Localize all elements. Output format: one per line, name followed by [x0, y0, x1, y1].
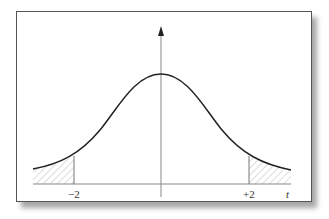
bell-curve	[33, 74, 291, 170]
left-tail-shading	[33, 156, 74, 184]
right-tail-shading	[249, 156, 291, 184]
y-axis-arrow-icon	[158, 26, 164, 36]
normal-curve-diagram: −2 +2 t	[0, 0, 329, 219]
x-axis-label: t	[286, 188, 290, 200]
tick-label-plus2: +2	[243, 188, 255, 200]
tick-label-minus2: −2	[68, 188, 80, 200]
